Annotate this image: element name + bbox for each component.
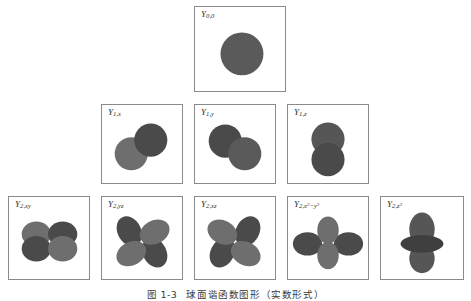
caption-number: 图 1-3 <box>147 289 178 300</box>
panel-Y2xy: Y2,xy <box>8 196 90 280</box>
label-sub: 2,xy <box>20 202 31 209</box>
panel-Y1y: Y1,y <box>194 104 276 184</box>
label-sub: 2,xz <box>206 202 216 209</box>
caption-text: 球面谐函数图形（实数形式） <box>186 289 324 300</box>
panel-label-Y00: Y0,0 <box>201 10 214 20</box>
figure-caption: 图 1-3 球面谐函数图形（实数形式） <box>0 289 471 301</box>
panel-Y00: Y0,0 <box>194 6 286 92</box>
panel-label-Y1y: Y1,y <box>201 108 214 118</box>
label-sub: 1,z <box>299 110 307 117</box>
label-sub: 2,x2−y2 <box>299 202 319 209</box>
label-sub: 1,x <box>113 110 121 117</box>
panel-Y2yz: Y2,yz <box>101 196 183 280</box>
panel-Y2x2y2: Y2,x2−y2 <box>287 196 369 280</box>
panel-Y2xz: Y2,xz <box>194 196 276 280</box>
panel-label-Y2xz: Y2,xz <box>201 200 217 210</box>
label-sub: 0,0 <box>206 12 214 19</box>
panel-Y1z: Y1,z <box>287 104 369 184</box>
label-sub: 1,y <box>206 110 214 117</box>
panel-Y2z2: Y2,z2 <box>380 196 464 280</box>
panel-label-Y2z2: Y2,z2 <box>387 200 402 210</box>
panel-label-Y2xy: Y2,xy <box>15 200 31 210</box>
label-sub: 2,z2 <box>392 202 402 209</box>
panel-label-Y2yz: Y2,yz <box>108 200 124 210</box>
panel-Y1x: Y1,x <box>101 104 183 184</box>
label-sub: 2,yz <box>113 202 123 209</box>
panel-label-Y2x2y2: Y2,x2−y2 <box>294 200 319 210</box>
panel-label-Y1x: Y1,x <box>108 108 121 118</box>
panel-label-Y1z: Y1,z <box>294 108 307 118</box>
figure-root: Y0,0 Y1,x Y1,y Y1,z <box>0 0 471 301</box>
